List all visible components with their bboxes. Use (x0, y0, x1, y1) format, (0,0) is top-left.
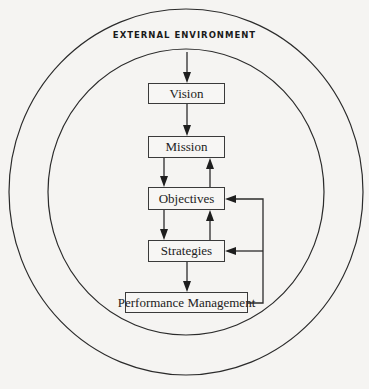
feedback-loop (225, 195, 263, 303)
arrow-environment-to-vision (183, 52, 191, 83)
external-environment-label: EXTERNAL ENVIRONMENT (0, 30, 369, 40)
arrow-strategies-to-performance (183, 262, 191, 292)
node-performance-management: Performance Management (125, 292, 248, 313)
arrow-vision-to-mission (183, 104, 191, 136)
arrow-strategies-to-objectives (206, 210, 214, 240)
node-vision: Vision (148, 83, 225, 104)
node-mission: Mission (148, 136, 225, 158)
node-strategies: Strategies (148, 240, 225, 262)
arrow-objectives-to-strategies (160, 210, 168, 240)
node-objectives: Objectives (148, 187, 225, 210)
arrow-mission-to-objectives (160, 158, 168, 187)
arrow-objectives-to-mission (206, 158, 214, 187)
